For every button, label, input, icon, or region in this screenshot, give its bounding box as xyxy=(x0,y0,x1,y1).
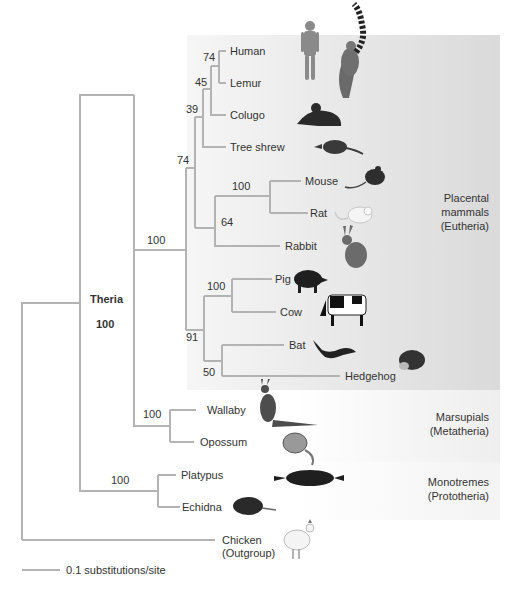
taxon-label-cow: Cow xyxy=(280,306,302,318)
support-primates-colugo: 45 xyxy=(195,76,207,88)
svg-text:Placental: Placental xyxy=(444,192,489,204)
support-theria: 100 xyxy=(96,318,114,330)
clade-label-eutheria: Placental mammals (Eutheria) xyxy=(441,192,490,232)
hedgehog-icon xyxy=(399,350,425,370)
svg-text:Monotremes: Monotremes xyxy=(428,476,490,488)
support-monotremes: 100 xyxy=(111,474,129,486)
support-human-lemur: 74 xyxy=(203,51,215,63)
taxon-label-chicken: Chicken xyxy=(222,534,262,546)
taxon-label-pig: Pig xyxy=(275,273,291,285)
taxon-label-mouse: Mouse xyxy=(305,175,338,187)
taxon-label-colugo: Colugo xyxy=(230,109,265,121)
taxon-label-platypus: Platypus xyxy=(181,469,224,481)
support-laurasiatheria: 91 xyxy=(186,331,198,343)
support-mouse-rat: 100 xyxy=(232,180,250,192)
support-pig-cow: 100 xyxy=(207,280,225,292)
phylogenetic-tree: Human Lemur Colugo Tree shrew Mouse Rat … xyxy=(0,0,521,589)
taxon-label-opossum: Opossum xyxy=(200,436,247,448)
chicken-icon xyxy=(284,519,314,559)
support-marsupials: 100 xyxy=(143,408,161,420)
taxon-label-lemur: Lemur xyxy=(230,77,262,89)
support-eutheria: 100 xyxy=(147,234,165,246)
svg-text:mammals: mammals xyxy=(441,206,489,218)
taxon-label-tree-shrew: Tree shrew xyxy=(230,141,285,153)
svg-text:(Metatheria): (Metatheria) xyxy=(430,425,489,437)
taxon-label-echidna: Echidna xyxy=(182,501,223,513)
echidna-icon xyxy=(233,497,276,515)
taxon-label-wallaby: Wallaby xyxy=(207,404,246,416)
svg-text:(Eutheria): (Eutheria) xyxy=(441,220,489,232)
support-euarchontoglires: 74 xyxy=(177,154,189,166)
taxon-label-hedgehog: Hedgehog xyxy=(345,370,396,382)
scale-bar-label: 0.1 substitutions/site xyxy=(66,564,166,576)
support-bat-hedgehog: 50 xyxy=(203,366,215,378)
svg-text:Marsupials: Marsupials xyxy=(436,411,490,423)
support-glires: 64 xyxy=(221,216,233,228)
taxon-label-rabbit: Rabbit xyxy=(285,240,317,252)
taxon-label-outgroup: (Outgroup) xyxy=(222,547,275,559)
taxon-label-rat: Rat xyxy=(310,207,327,219)
taxon-label-human: Human xyxy=(230,45,265,57)
taxon-label-bat: Bat xyxy=(289,339,306,351)
support-euarchonta: 39 xyxy=(186,103,198,115)
svg-text:(Prototheria): (Prototheria) xyxy=(428,490,489,502)
clade-label-theria: Theria xyxy=(90,293,124,305)
